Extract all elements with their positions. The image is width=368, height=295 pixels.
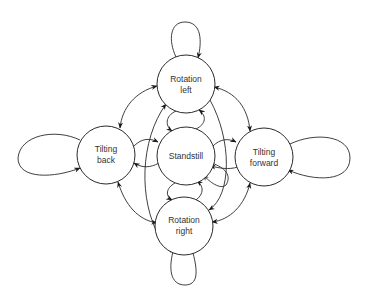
edge-tilting-back-self-loop <box>18 134 80 175</box>
edge-tilting-forward-to-standstill <box>210 166 238 169</box>
state-diagram: Rotation left Tilting back Standstill Ti… <box>0 0 368 295</box>
edge-rotation-right-tilting-back <box>118 182 157 223</box>
node-label: Tilting <box>95 144 118 154</box>
edge-rotation-right-tilting-forward <box>212 183 250 222</box>
edge-standstill-to-rotation-right <box>167 183 175 200</box>
node-rotation-left: Rotation left <box>157 55 215 113</box>
edge-rotation-left-to-standstill <box>167 111 176 131</box>
node-label: right <box>176 226 193 236</box>
node-label: Rotation <box>170 74 202 84</box>
node-label: forward <box>250 158 279 168</box>
edge-standstill-to-rotation-left <box>196 110 204 129</box>
edge-rotation-left-tilting-back <box>120 86 157 128</box>
edge-rotation-left-tilting-forward <box>214 87 250 131</box>
edge-tilting-forward-self-loop <box>288 137 350 178</box>
node-label: Rotation <box>168 215 200 225</box>
node-tilting-forward: Tilting forward <box>235 128 293 186</box>
node-label: left <box>180 85 192 95</box>
node-standstill: Standstill <box>157 127 215 185</box>
edge-rotation-left-self-loop <box>171 22 200 58</box>
node-label: back <box>97 155 116 165</box>
node-rotation-right: Rotation right <box>155 197 213 255</box>
edge-rotation-right-to-standstill <box>196 181 202 200</box>
node-label: Tilting <box>253 147 276 157</box>
edge-standstill-to-tilting-back <box>134 163 159 167</box>
node-tilting-back: Tilting back <box>77 126 135 184</box>
edge-tilting-back-to-standstill <box>134 139 158 146</box>
node-label: Standstill <box>169 151 204 161</box>
